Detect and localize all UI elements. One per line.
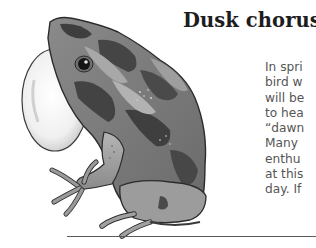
body-line: at this [265, 167, 316, 182]
body-line: bird w [265, 75, 316, 90]
body-line: to hea [265, 106, 316, 121]
body-line: Many [265, 136, 316, 151]
body-line: “dawn [265, 121, 316, 136]
article-body-text: In spri bird w will be to hea “dawn Many… [265, 60, 316, 198]
body-line: will be [265, 91, 316, 106]
body-line: day. If [265, 182, 316, 197]
body-line: In spri [265, 60, 316, 75]
frog-eye [75, 56, 93, 72]
frog-illustration [0, 0, 270, 248]
article-heading: Dusk chorus [183, 9, 316, 33]
horizontal-rule [67, 236, 316, 237]
body-line: enthu [265, 152, 316, 167]
book-page: Dusk chorus In spri bird w will be to he… [0, 0, 316, 248]
